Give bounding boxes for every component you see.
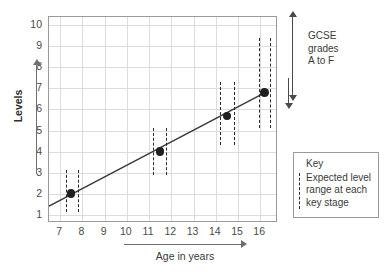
x-tick-label: 11 xyxy=(137,226,159,237)
data-point xyxy=(156,147,165,156)
x-tick-label: 15 xyxy=(226,226,248,237)
legend-entry-line: range at each xyxy=(306,184,378,196)
y-axis-title-group: Levels xyxy=(2,62,42,182)
legend-box: Key Expected levelrange at eachkey stage xyxy=(293,152,379,218)
y-axis-label: Levels xyxy=(12,76,24,136)
legend-swatch-dashed xyxy=(299,173,300,209)
data-point xyxy=(260,88,269,97)
x-tick-label: 12 xyxy=(159,226,181,237)
legend-entry-line: key stage xyxy=(306,197,378,209)
expected-range-bar xyxy=(166,128,167,174)
x-axis-label: Age in years xyxy=(120,250,250,262)
expected-range-bar xyxy=(78,170,79,212)
y-tick-label: 9 xyxy=(18,40,42,51)
gcse-annotation-line: GCSE xyxy=(308,30,378,43)
plot-area xyxy=(48,16,277,222)
legend-entry-line: Expected level xyxy=(306,172,378,184)
right-arrow-icon xyxy=(124,244,242,245)
x-tick-label: 16 xyxy=(248,226,270,237)
data-layer xyxy=(49,17,276,221)
gcse-annotation: GCSEgradesA to F xyxy=(286,12,382,104)
y-tick-label: 2 xyxy=(18,188,42,199)
gcse-annotation-line: A to F xyxy=(308,55,378,68)
x-tick-label: 10 xyxy=(115,226,137,237)
x-tick-label: 14 xyxy=(204,226,226,237)
expected-range-bar xyxy=(153,128,154,174)
down-arrow-icon xyxy=(288,78,289,104)
x-tick-label: 7 xyxy=(48,226,70,237)
up-arrow-icon xyxy=(36,64,37,174)
legend-title: Key xyxy=(306,158,323,169)
chart-figure: 12345678910 78910111213141516 Levels Age… xyxy=(0,0,386,272)
trend-line xyxy=(49,17,278,223)
data-point xyxy=(223,112,232,121)
x-tick-label: 8 xyxy=(70,226,92,237)
double-arrow-icon xyxy=(292,16,293,96)
x-axis-title-group: Age in years xyxy=(120,240,250,268)
expected-range-bar xyxy=(220,82,221,145)
gcse-annotation-text: GCSEgradesA to F xyxy=(308,30,378,68)
legend-entry-text: Expected levelrange at eachkey stage xyxy=(306,172,378,209)
expected-range-bar xyxy=(270,38,271,128)
x-tick-label: 13 xyxy=(182,226,204,237)
expected-range-bar xyxy=(234,82,235,145)
expected-range-bar xyxy=(259,38,260,128)
y-tick-label: 1 xyxy=(18,209,42,220)
y-tick-label: 10 xyxy=(18,19,42,30)
x-tick-label: 9 xyxy=(93,226,115,237)
gcse-annotation-line: grades xyxy=(308,43,378,56)
